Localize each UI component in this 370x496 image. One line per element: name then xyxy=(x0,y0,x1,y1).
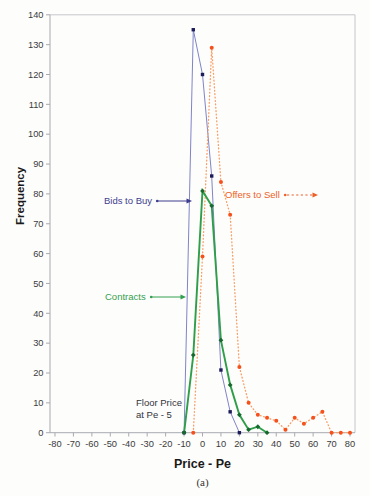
svg-text:140: 140 xyxy=(28,10,44,20)
svg-text:120: 120 xyxy=(28,70,44,80)
annotation-bids-to-buy: Bids to Buy xyxy=(104,195,193,206)
bids-to-buy-label: Bids to Buy xyxy=(104,195,152,206)
svg-text:10: 10 xyxy=(216,439,226,449)
offers-arrow-icon xyxy=(283,191,319,199)
svg-text:40: 40 xyxy=(271,439,281,449)
y-axis-ticks: 0102030405060708090100110120130140 xyxy=(28,10,50,438)
frequency-distribution-figure: 0102030405060708090100110120130140-80-70… xyxy=(0,0,370,496)
svg-text:60: 60 xyxy=(33,249,43,259)
svg-text:80: 80 xyxy=(33,189,43,199)
x-axis-title: Price - Pe xyxy=(50,457,355,471)
bids-arrow-icon xyxy=(155,197,193,205)
svg-text:10: 10 xyxy=(33,398,43,408)
contracts-label: Contracts xyxy=(105,291,146,302)
annotation-floor-price: Floor Price at Pe - 5 xyxy=(136,397,182,421)
svg-text:40: 40 xyxy=(33,309,43,319)
svg-text:50: 50 xyxy=(290,439,300,449)
figure-caption: (a) xyxy=(50,476,355,488)
svg-text:0: 0 xyxy=(200,439,205,449)
svg-text:20: 20 xyxy=(33,368,43,378)
annotation-contracts: Contracts xyxy=(105,291,187,302)
svg-text:50: 50 xyxy=(33,279,43,289)
contracts-arrow-icon xyxy=(149,293,187,301)
svg-text:90: 90 xyxy=(33,159,43,169)
svg-text:-30: -30 xyxy=(140,439,153,449)
svg-text:110: 110 xyxy=(29,100,44,110)
svg-text:100: 100 xyxy=(28,129,44,139)
svg-text:60: 60 xyxy=(308,439,318,449)
x-axis-ticks: -80-70-60-50-40-30-20-100102030405060708… xyxy=(48,433,355,449)
svg-text:0: 0 xyxy=(38,428,43,438)
floor-price-line2: at Pe - 5 xyxy=(136,409,182,421)
svg-text:130: 130 xyxy=(28,40,44,50)
svg-text:-80: -80 xyxy=(48,439,61,449)
svg-text:-20: -20 xyxy=(159,439,172,449)
annotation-offers-to-sell: Offers to Sell xyxy=(225,189,319,200)
svg-text:30: 30 xyxy=(33,338,43,348)
svg-text:70: 70 xyxy=(326,439,336,449)
svg-text:70: 70 xyxy=(33,219,43,229)
svg-text:80: 80 xyxy=(345,439,355,449)
svg-text:-50: -50 xyxy=(104,439,117,449)
offers-to-sell-label: Offers to Sell xyxy=(225,189,280,200)
svg-text:-70: -70 xyxy=(67,439,80,449)
svg-text:-60: -60 xyxy=(85,439,98,449)
svg-text:-10: -10 xyxy=(177,439,190,449)
chart-plot-area: 0102030405060708090100110120130140-80-70… xyxy=(0,0,370,496)
svg-text:-40: -40 xyxy=(122,439,135,449)
svg-text:30: 30 xyxy=(253,439,263,449)
series-offers-to-sell xyxy=(191,46,352,435)
svg-text:20: 20 xyxy=(234,439,244,449)
floor-price-line1: Floor Price xyxy=(136,397,182,409)
